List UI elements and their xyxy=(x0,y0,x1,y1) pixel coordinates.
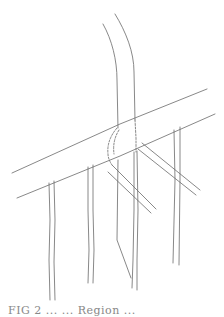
strand-5-left xyxy=(173,130,175,263)
stem-right-edge xyxy=(115,14,135,120)
hidden-stem-mid xyxy=(114,130,119,154)
diagonal-strand-2-lower xyxy=(138,149,196,195)
strand-2-right xyxy=(93,165,94,283)
strand-3-right xyxy=(132,152,134,288)
strand-2-left xyxy=(88,167,89,283)
strand-1-left xyxy=(49,183,50,300)
diagonal-strand-2-upper xyxy=(142,143,200,190)
hidden-stem-right xyxy=(135,120,136,152)
strand-5-right xyxy=(179,127,180,265)
diagonal-strand-1-lower xyxy=(108,172,151,213)
strand-3-left xyxy=(117,160,131,278)
strand-4-left xyxy=(137,151,138,290)
strand-1-right xyxy=(54,181,55,300)
bar-bottom-edge xyxy=(17,114,215,198)
stem-left-edge xyxy=(103,24,118,128)
figure-caption: FIG 2 ... ... Region ... xyxy=(8,305,224,317)
